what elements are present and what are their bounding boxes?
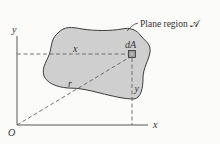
radial-distance-label: r: [68, 78, 72, 89]
vertical-distance-label: y: [134, 83, 140, 94]
diagram-canvas: y x O x r y dA Plane region 𝒜: [0, 0, 220, 144]
element-label: dA: [125, 39, 137, 50]
x-axis-label: x: [152, 119, 158, 130]
origin-label: O: [8, 127, 15, 138]
region-label: Plane region 𝒜: [140, 19, 201, 29]
y-axis-label: y: [11, 24, 17, 35]
horizontal-distance-label: x: [72, 43, 78, 54]
